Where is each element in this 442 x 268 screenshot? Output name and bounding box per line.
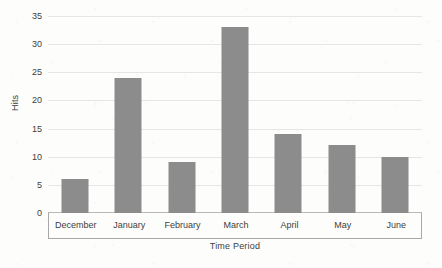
x-axis-title: Time Period bbox=[48, 241, 422, 251]
bar bbox=[168, 162, 195, 213]
x-axis-category-label: January bbox=[113, 220, 145, 230]
bar-slot bbox=[155, 16, 208, 213]
bar-slot bbox=[101, 16, 154, 213]
bar bbox=[275, 134, 302, 213]
bar-series bbox=[48, 16, 422, 213]
x-axis-category-label: February bbox=[165, 220, 201, 230]
x-axis-category-label: June bbox=[387, 220, 407, 230]
y-axis-tick-label: 20 bbox=[32, 95, 42, 105]
y-axis-tick-label: 0 bbox=[37, 208, 42, 218]
y-axis-tick-label: 30 bbox=[32, 39, 42, 49]
bar-slot bbox=[48, 16, 101, 213]
bar bbox=[61, 179, 88, 213]
x-axis-category-label: December bbox=[55, 220, 97, 230]
plot-area: 05101520253035 bbox=[48, 16, 422, 213]
x-axis-category-band: DecemberJanuaryFebruaryMarchAprilMayJune bbox=[48, 213, 422, 239]
bar-slot bbox=[262, 16, 315, 213]
bar bbox=[221, 27, 248, 213]
y-axis-tick-label: 10 bbox=[32, 152, 42, 162]
bar-slot bbox=[369, 16, 422, 213]
bar bbox=[328, 145, 355, 213]
bar bbox=[382, 157, 409, 213]
x-axis-category-label: May bbox=[334, 220, 351, 230]
y-axis-tick-label: 25 bbox=[32, 67, 42, 77]
bar-chart: Hits 05101520253035 DecemberJanuaryFebru… bbox=[0, 0, 442, 268]
bar bbox=[115, 78, 142, 213]
bar-slot bbox=[208, 16, 261, 213]
y-axis-tick-label: 35 bbox=[32, 11, 42, 21]
y-axis-tick-label: 15 bbox=[32, 124, 42, 134]
x-axis-category-label: March bbox=[223, 220, 248, 230]
y-axis-title: Hits bbox=[10, 95, 20, 111]
bar-slot bbox=[315, 16, 368, 213]
y-axis-tick-label: 5 bbox=[37, 180, 42, 190]
x-axis-category-label: April bbox=[280, 220, 298, 230]
